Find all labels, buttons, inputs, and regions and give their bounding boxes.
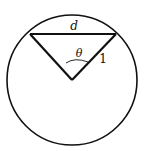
- angle-label: θ: [76, 47, 83, 60]
- radius-label: 1: [99, 52, 107, 66]
- chord-label: d: [70, 19, 78, 33]
- radius-left: [30, 34, 72, 80]
- angle-arc: [66, 60, 88, 63]
- circle-chord-diagram: d θ 1: [0, 0, 145, 151]
